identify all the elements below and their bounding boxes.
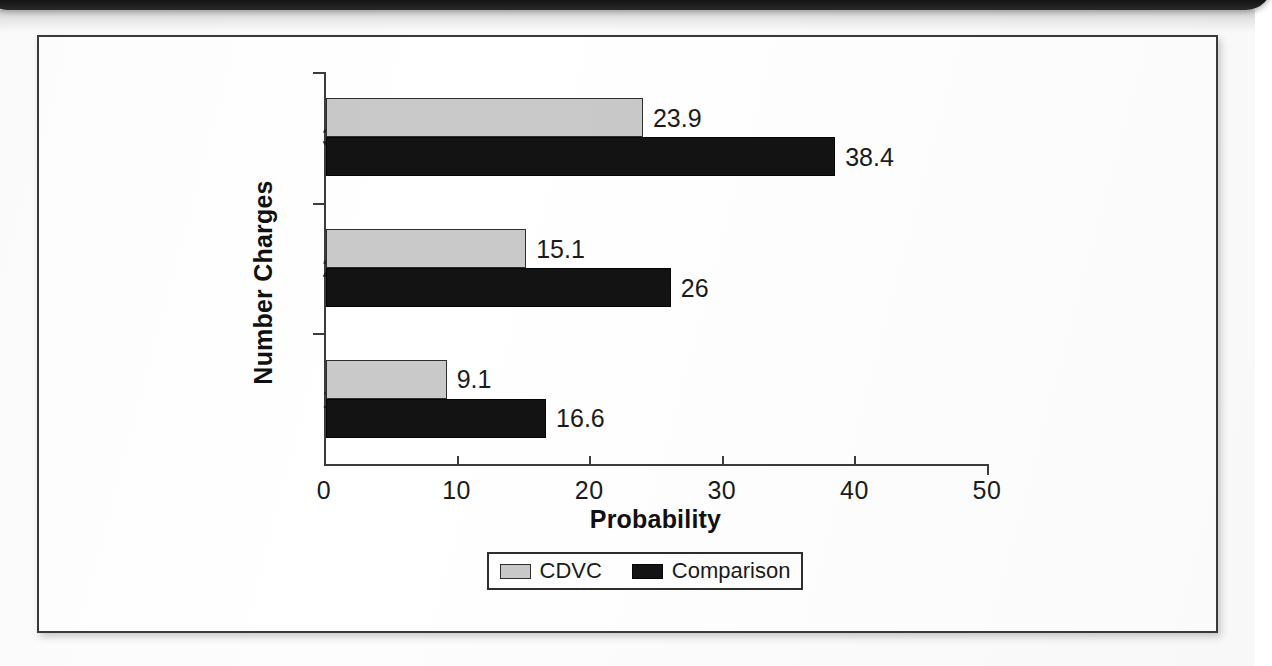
x-tick-label: 10 <box>442 476 471 505</box>
legend-entry-cdvc: CDVC <box>500 558 602 584</box>
y-axis-top-cap <box>313 72 324 74</box>
bar-comparison-cat-1 <box>326 399 546 438</box>
y-tick-mark <box>313 333 324 335</box>
legend-label: Comparison <box>672 558 791 584</box>
plot-area: 01020304050 123 9.116.615.12623.938.4 <box>324 72 987 464</box>
x-tick-label: 20 <box>575 476 604 505</box>
figure-frame: Number Charges 01020304050 123 9.116.615… <box>37 35 1218 633</box>
page-shadow <box>0 10 1255 32</box>
bar-value-label: 23.9 <box>653 103 702 132</box>
y-axis-title: Number Charges <box>249 118 278 448</box>
bar-comparison-cat-3 <box>326 137 835 176</box>
scan-edge-artifact <box>0 0 1272 10</box>
x-tick-label: 30 <box>707 476 736 505</box>
x-tick-label: 40 <box>840 476 869 505</box>
y-axis-title-container: Number Charges <box>169 72 229 464</box>
bar-value-label: 38.4 <box>845 142 894 171</box>
bar-cdvc-cat-1 <box>326 360 447 399</box>
x-tick-mark <box>722 456 724 466</box>
bar-value-label: 15.1 <box>536 234 585 263</box>
x-tick-mark <box>589 456 591 466</box>
legend-swatch-comparison-icon <box>632 564 663 579</box>
x-tick-mark <box>854 456 856 466</box>
x-axis-line <box>324 464 989 466</box>
legend-entry-comparison: Comparison <box>632 558 791 584</box>
x-tick-mark <box>457 456 459 466</box>
bar-value-label: 26 <box>681 273 709 302</box>
x-tick-mark <box>324 456 326 466</box>
bar-value-label: 9.1 <box>457 365 492 394</box>
bar-comparison-cat-2 <box>326 268 671 307</box>
legend-swatch-cdvc-icon <box>500 564 531 579</box>
chart-legend: CDVCComparison <box>487 552 803 590</box>
x-tick-mark <box>987 464 989 475</box>
x-tick-label: 50 <box>973 476 1002 505</box>
y-tick-mark <box>313 203 324 205</box>
x-tick-label: 0 <box>317 476 331 505</box>
bar-cdvc-cat-3 <box>326 98 643 137</box>
bar-cdvc-cat-2 <box>326 229 526 268</box>
bar-value-label: 16.6 <box>556 404 605 433</box>
legend-label: CDVC <box>540 558 602 584</box>
x-axis-title: Probability <box>324 505 987 534</box>
